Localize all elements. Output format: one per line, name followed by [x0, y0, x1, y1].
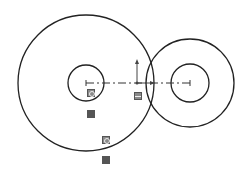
tangent-relation-icon[interactable] — [87, 110, 95, 118]
origin-icon[interactable] — [135, 59, 155, 85]
concentric-relation-icon[interactable] — [87, 89, 95, 97]
sketch-canvas[interactable] — [0, 0, 245, 177]
horizontal-relation-icon[interactable] — [134, 92, 142, 100]
tangent-relation-icon[interactable] — [102, 156, 110, 164]
concentric-relation-icon[interactable] — [102, 136, 110, 144]
